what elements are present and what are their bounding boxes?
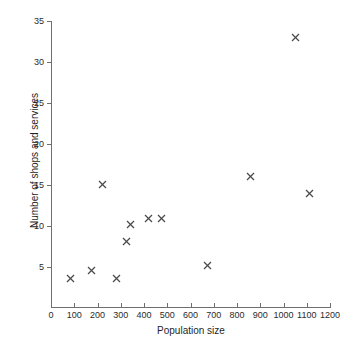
y-tick-mark [47, 144, 51, 145]
data-point-marker [66, 274, 75, 283]
x-tick-mark [260, 303, 261, 307]
x-tick-mark [284, 303, 285, 307]
data-point-marker [112, 274, 121, 283]
x-tick-label: 1200 [315, 310, 345, 321]
x-tick-mark [121, 303, 122, 307]
x-axis-spine [51, 307, 331, 308]
data-point-marker [126, 220, 135, 229]
x-tick-mark [74, 303, 75, 307]
data-point-marker [157, 214, 166, 223]
x-tick-mark [214, 303, 215, 307]
y-axis-spine [51, 21, 52, 308]
data-point-marker [87, 266, 96, 275]
x-tick-mark [330, 303, 331, 307]
x-tick-mark [237, 303, 238, 307]
y-tick-mark [47, 267, 51, 268]
y-tick-mark [47, 226, 51, 227]
scatter-plot-figure: 0100200300400500600700800900100011001200… [0, 0, 358, 358]
y-tick-mark [47, 21, 51, 22]
y-tick-mark [47, 103, 51, 104]
data-point-marker [291, 33, 300, 42]
x-tick-mark [307, 303, 308, 307]
x-axis-label: Population size [51, 325, 331, 336]
data-point-marker [305, 189, 314, 198]
data-point-marker [246, 172, 255, 181]
y-axis-label: Number of shops and services [29, 61, 40, 261]
x-tick-mark [98, 303, 99, 307]
data-point-marker [144, 214, 153, 223]
x-tick-mark [167, 303, 168, 307]
x-tick-mark [191, 303, 192, 307]
y-tick-mark [47, 185, 51, 186]
data-point-marker [122, 237, 131, 246]
y-tick-label: 35 [16, 16, 44, 26]
x-tick-mark [51, 303, 52, 307]
data-point-marker [98, 180, 107, 189]
x-tick-mark [144, 303, 145, 307]
y-tick-mark [47, 62, 51, 63]
y-tick-label: 5 [16, 262, 44, 272]
data-point-marker [203, 261, 212, 270]
